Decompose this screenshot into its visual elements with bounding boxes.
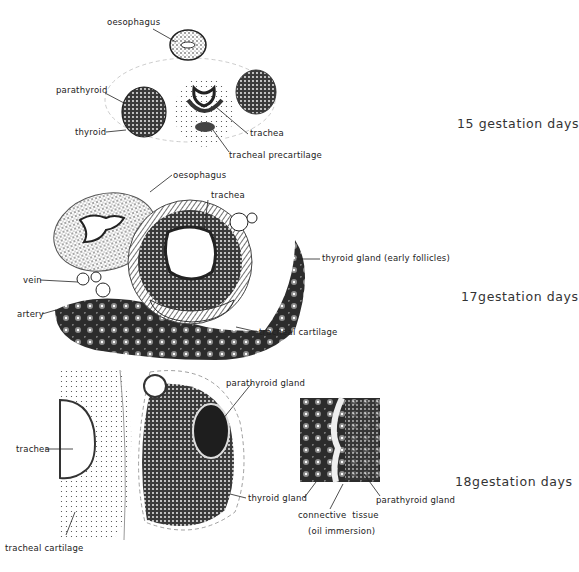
label-oil-immersion: (oil immersion): [308, 526, 375, 536]
label-trachea-15: trachea: [250, 128, 284, 138]
label-tracheal-cartilage-17: tracheal cartilage: [259, 327, 337, 337]
label-oesophagus-15: oesophagus: [107, 17, 160, 27]
label-parathyroid-gland-18: parathyroid gland: [226, 378, 305, 388]
stage-label-17-days: 17gestation days: [461, 289, 579, 304]
parathyroid-gland-section: [193, 404, 229, 458]
label-trachea-18: trachea: [16, 444, 50, 454]
thyroid-parathyroid-left: [122, 87, 166, 137]
label-connective-tissue: connective tissue: [298, 510, 379, 520]
label-oesophagus-17: oesophagus: [173, 170, 226, 180]
label-vein: vein: [23, 275, 42, 285]
label-inset-parathyroid-gland: parathyroid gland: [376, 495, 455, 505]
stage-label-18-days: 18gestation days: [455, 474, 573, 489]
trachea-lumen: [165, 227, 215, 279]
label-tracheal-cartilage-18: tracheal cartilage: [5, 543, 83, 553]
thyroid-right: [236, 70, 276, 114]
label-tracheal-precartilage-15: tracheal precartilage: [229, 150, 322, 160]
stage-label-15-days: 15 gestation days: [457, 116, 579, 131]
label-trachea-17: trachea: [211, 190, 245, 200]
label-artery: artery: [17, 309, 44, 319]
label-parathyroid-15: parathyroid: [56, 85, 108, 95]
vein-section: [77, 273, 89, 285]
artery-section: [96, 283, 110, 297]
label-thyroid-gland-early-follicles: thyroid gland (early follicles): [322, 253, 450, 263]
label-thyroid-gland-18: thyroid gland: [248, 493, 307, 503]
label-thyroid-15: thyroid: [75, 127, 106, 137]
